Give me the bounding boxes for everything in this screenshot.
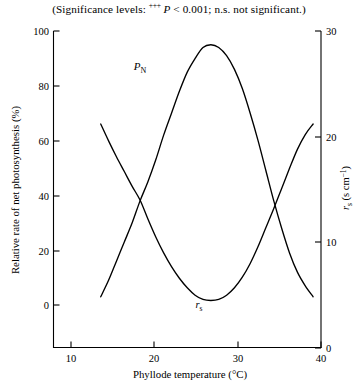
left-tick-80: 80 [39, 81, 50, 92]
pn-curve [101, 45, 313, 297]
right-tick-30: 30 [326, 26, 337, 37]
left-axis-tick-labels: 100 80 60 40 20 0 [33, 26, 49, 311]
right-axis-title-close: ) [340, 165, 352, 169]
chart-figure: 100 80 60 40 20 0 Relative rate of net p… [0, 0, 358, 389]
right-tick-20: 20 [326, 132, 337, 143]
right-axis-title-units: (s cm [340, 177, 352, 203]
x-tick-40: 40 [316, 353, 327, 364]
left-tick-20: 20 [39, 246, 50, 257]
right-axis-title: rs (s cm−1) [339, 165, 354, 210]
x-axis-tick-labels: 10 20 30 40 [66, 353, 327, 364]
x-axis-title: Phyllode temperature (°C) [133, 368, 247, 381]
svg-text:rs (s cm−1): rs (s cm−1) [339, 165, 354, 210]
x-tick-30: 30 [233, 353, 244, 364]
x-axis-ticks [71, 342, 321, 348]
right-axis-ticks [315, 31, 321, 348]
rs-curve-label: rs [195, 299, 202, 313]
left-axis-title: Relative rate of net photosynthesis (%) [9, 105, 22, 274]
rs-curve [101, 124, 313, 300]
right-tick-0: 0 [326, 343, 331, 354]
x-tick-20: 20 [149, 353, 160, 364]
right-tick-10: 10 [326, 237, 337, 248]
left-tick-0: 0 [44, 300, 49, 311]
pn-curve-label: PN [133, 60, 147, 75]
x-tick-10: 10 [66, 353, 77, 364]
right-axis-tick-labels: 30 20 10 0 [326, 26, 337, 354]
left-tick-40: 40 [39, 191, 50, 202]
left-tick-60: 60 [39, 136, 50, 147]
left-tick-100: 100 [33, 26, 49, 37]
left-axis-ticks [54, 31, 60, 305]
